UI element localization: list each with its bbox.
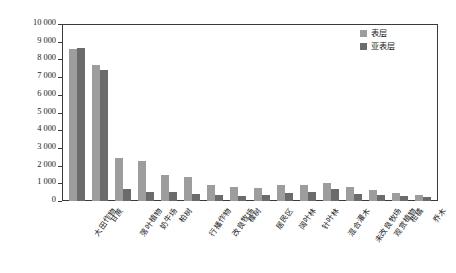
bar-group bbox=[111, 24, 134, 201]
x-label-cell: 针叶林 bbox=[296, 203, 319, 273]
y-tick-label: 6 000 bbox=[37, 89, 56, 98]
x-label-cell: 行播作物 bbox=[181, 203, 204, 273]
bar-subsurface bbox=[123, 189, 131, 201]
bar-subsurface bbox=[354, 194, 362, 201]
bar-surface bbox=[69, 49, 77, 201]
bar-subsurface bbox=[400, 196, 408, 201]
bar-group bbox=[227, 24, 250, 201]
bar-subsurface bbox=[77, 48, 85, 201]
y-tick-label: 1 000 bbox=[37, 177, 56, 186]
x-label-cell: 观赏植物 bbox=[366, 203, 389, 273]
bar-subsurface bbox=[238, 196, 246, 201]
bar-group bbox=[319, 24, 342, 201]
bar-surface bbox=[346, 187, 354, 201]
chart-figure: 全氮含量(mg·kg⁻¹) 01 0002 0003 0004 0005 000… bbox=[0, 0, 456, 273]
legend-label-subsurface: 亚表层 bbox=[371, 41, 395, 52]
legend-item-subsurface: 亚表层 bbox=[360, 41, 395, 52]
x-label-cell: 乔木 bbox=[412, 203, 435, 273]
legend-swatch-surface bbox=[360, 30, 367, 37]
x-label-cell: 落叶植物 bbox=[111, 203, 134, 273]
x-label-cell: 阔叶林 bbox=[273, 203, 296, 273]
bar-subsurface bbox=[100, 70, 108, 202]
x-axis-labels: 大田作物甘蔗落叶植物奶牛场柏树行播作物改良牧场橡树居民区阔叶林针叶林混合灌木未改… bbox=[62, 203, 438, 273]
bar-subsurface bbox=[377, 195, 385, 201]
y-tick-label: 4 000 bbox=[37, 124, 56, 133]
bar-subsurface bbox=[308, 192, 316, 201]
y-tick-mark bbox=[58, 201, 62, 202]
bar-subsurface bbox=[215, 195, 223, 201]
y-tick-label: 0 bbox=[52, 195, 56, 204]
bar-surface bbox=[230, 187, 238, 201]
bar-surface bbox=[92, 65, 100, 201]
legend-item-surface: 表层 bbox=[360, 28, 395, 39]
bar-surface bbox=[277, 185, 285, 201]
x-label-cell: 改良牧场 bbox=[204, 203, 227, 273]
bar-surface bbox=[323, 183, 331, 201]
bar-surface bbox=[369, 190, 377, 201]
x-label-cell: 柏树 bbox=[158, 203, 181, 273]
chart-legend: 表层 亚表层 bbox=[360, 28, 395, 54]
x-label-cell: 奶牛场 bbox=[134, 203, 157, 273]
x-label-cell: 柑橘 bbox=[389, 203, 412, 273]
bar-group bbox=[65, 24, 88, 201]
y-tick-label: 7 000 bbox=[37, 71, 56, 80]
bar-group bbox=[134, 24, 157, 201]
bar-group bbox=[296, 24, 319, 201]
bar-surface bbox=[392, 193, 400, 201]
x-label-cell: 未改良牧场 bbox=[343, 203, 366, 273]
y-tick-label: 3 000 bbox=[37, 142, 56, 151]
bar-surface bbox=[138, 161, 146, 201]
bar-surface bbox=[207, 185, 215, 201]
bar-group bbox=[250, 24, 273, 201]
x-label-cell: 大田作物 bbox=[65, 203, 88, 273]
y-tick-label: 10 000 bbox=[33, 18, 56, 27]
bar-surface bbox=[254, 188, 262, 201]
bar-group bbox=[181, 24, 204, 201]
legend-label-surface: 表层 bbox=[371, 28, 387, 39]
bar-surface bbox=[161, 175, 169, 201]
bar-subsurface bbox=[262, 195, 270, 201]
y-tick-label: 8 000 bbox=[37, 53, 56, 62]
y-tick-label: 5 000 bbox=[37, 107, 56, 116]
bar-group bbox=[204, 24, 227, 201]
bar-surface bbox=[184, 177, 192, 201]
x-label-cell: 甘蔗 bbox=[88, 203, 111, 273]
y-tick-label: 2 000 bbox=[37, 160, 56, 169]
bar-subsurface bbox=[169, 192, 177, 201]
x-label-cell: 混合灌木 bbox=[319, 203, 342, 273]
bar-group bbox=[88, 24, 111, 201]
bar-subsurface bbox=[285, 193, 293, 201]
bar-group bbox=[273, 24, 296, 201]
bar-subsurface bbox=[146, 192, 154, 201]
x-label-cell: 居民区 bbox=[250, 203, 273, 273]
bar-group bbox=[158, 24, 181, 201]
bar-subsurface bbox=[331, 189, 339, 201]
bar-surface bbox=[300, 185, 308, 201]
bar-surface bbox=[115, 158, 123, 201]
x-tick-label: 乔木 bbox=[430, 205, 448, 225]
y-tick-label: 9 000 bbox=[37, 36, 56, 45]
x-label-cell: 橡树 bbox=[227, 203, 250, 273]
bar-subsurface bbox=[192, 194, 200, 201]
bar-surface bbox=[415, 195, 423, 201]
bar-group bbox=[412, 24, 435, 201]
legend-swatch-subsurface bbox=[360, 43, 367, 50]
bar-subsurface bbox=[423, 197, 431, 201]
